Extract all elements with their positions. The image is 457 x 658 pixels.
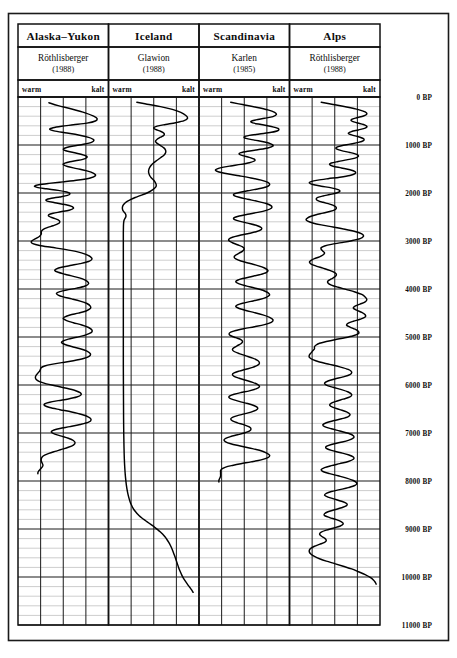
cold-axis-label: kalt <box>272 85 285 94</box>
y-axis-tick-label: 4000 BP <box>405 286 432 294</box>
y-axis-tick-label: 10000 BP <box>401 574 432 582</box>
y-axis-tick-label: 6000 BP <box>405 382 432 390</box>
region-title: Alaska–Yukon <box>27 30 101 42</box>
warm-axis-label: warm <box>294 85 314 94</box>
region-title: Iceland <box>135 30 173 42</box>
cold-axis-label: kalt <box>91 85 104 94</box>
y-axis-tick-label: 11000 BP <box>402 622 433 630</box>
warm-axis-label: warm <box>22 85 42 94</box>
author-name: Glawion <box>138 53 170 63</box>
cold-axis-label: kalt <box>363 85 376 94</box>
y-axis-tick-label: 9000 BP <box>405 526 432 534</box>
y-axis-tick-label: 1000 BP <box>405 142 432 150</box>
y-axis-tick-label: 2000 BP <box>405 190 432 198</box>
author-year: (1988) <box>143 65 165 74</box>
author-name: Röthlisberger <box>38 53 89 63</box>
warm-axis-label: warm <box>113 85 133 94</box>
author-year: (1988) <box>324 65 346 74</box>
figure-background <box>0 0 457 658</box>
y-axis-tick-label: 8000 BP <box>405 478 432 486</box>
warm-axis-label: warm <box>203 85 223 94</box>
cold-axis-label: kalt <box>182 85 195 94</box>
author-year: (1988) <box>52 65 74 74</box>
glacier-fluctuation-figure: Alaska–YukonRöthlisberger(1988)warmkaltI… <box>0 0 457 658</box>
region-title: Scandinavia <box>213 30 275 42</box>
y-axis-tick-label: 5000 BP <box>405 334 432 342</box>
y-axis-tick-label: 3000 BP <box>405 238 432 246</box>
author-name: Karlen <box>232 53 258 63</box>
author-year: (1985) <box>233 65 255 74</box>
region-title: Alps <box>323 30 346 42</box>
y-axis-tick-label: 7000 BP <box>405 430 432 438</box>
y-axis-tick-label: 0 BP <box>417 94 433 102</box>
author-name: Röthlisberger <box>310 53 361 63</box>
